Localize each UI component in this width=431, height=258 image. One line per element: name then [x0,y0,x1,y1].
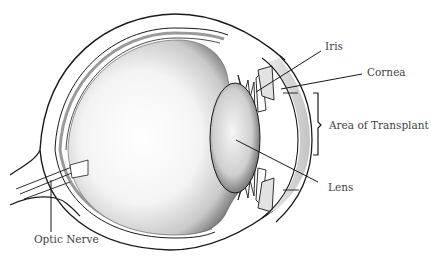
label-optic-nerve: Optic Nerve [34,234,99,245]
label-iris: Iris [325,41,343,52]
lens [210,83,260,193]
label-cornea: Cornea [367,67,406,78]
eye-diagram: Iris Cornea Area of Transplant Lens Opti… [0,0,431,258]
label-area-of-transplant: Area of Transplant [329,120,429,131]
transplant-bracket [313,93,321,155]
label-lens: Lens [328,182,353,193]
